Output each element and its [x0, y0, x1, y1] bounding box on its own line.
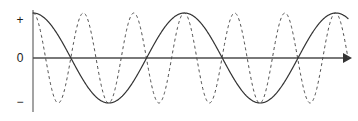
plot-canvas [0, 0, 358, 121]
y-axis-label-negative: − [12, 96, 28, 108]
waveform-figure: + 0 − [0, 0, 358, 121]
y-axis-label-positive: + [12, 14, 28, 26]
y-axis-label-zero: 0 [12, 52, 28, 64]
